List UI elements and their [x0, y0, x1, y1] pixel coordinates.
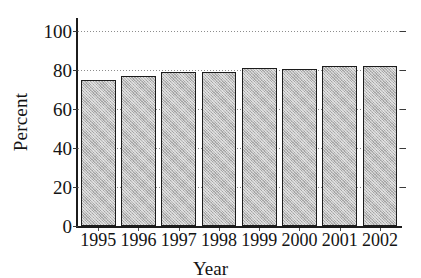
x-tick-label: 1998	[197, 230, 241, 250]
y-tick-mark-0	[73, 226, 78, 227]
x-axis-spine	[76, 226, 402, 228]
x-tick-label: 1999	[237, 230, 281, 250]
x-tick-mark	[380, 228, 381, 231]
x-tick-mark	[138, 228, 139, 231]
y-tick-label: 80	[20, 61, 72, 80]
y-axis-tick-labels: 020406080100	[20, 0, 72, 278]
y-tick-mark-right-60	[400, 109, 406, 110]
y-tick-label: 40	[20, 139, 72, 158]
y-tick-label: 0	[20, 217, 72, 236]
y-tick-label: 100	[20, 22, 72, 41]
x-tick-mark	[98, 228, 99, 231]
bar	[322, 66, 357, 226]
x-axis-tick-labels: 19951996199719981999200020012002	[78, 230, 400, 252]
x-tick-mark	[219, 228, 220, 231]
bar	[282, 69, 317, 226]
x-tick-label: 2000	[277, 230, 321, 250]
bar	[363, 66, 398, 226]
x-tick-label: 1997	[157, 230, 201, 250]
y-tick-label: 60	[20, 100, 72, 119]
y-tick-mark-right-100	[400, 31, 406, 32]
x-tick-mark	[179, 228, 180, 231]
y-tick-mark-right-40	[400, 148, 406, 149]
bar	[121, 76, 156, 226]
x-tick-label: 2002	[358, 230, 402, 250]
plot-area	[78, 31, 400, 226]
bar	[242, 68, 277, 226]
x-tick-label: 1996	[116, 230, 160, 250]
bar-chart-figure: Percent 020406080100 1995199619971998199…	[0, 0, 421, 278]
bar	[202, 72, 237, 226]
bar	[81, 80, 116, 226]
x-axis-title: Year	[0, 258, 421, 278]
y-tick-mark-right-80	[400, 70, 406, 71]
x-tick-mark	[259, 228, 260, 231]
x-tick-mark	[340, 228, 341, 231]
x-tick-label: 2001	[318, 230, 362, 250]
y-tick-label: 20	[20, 178, 72, 197]
bar	[161, 72, 196, 226]
bar-series	[78, 31, 400, 226]
x-tick-label: 1995	[76, 230, 120, 250]
y-tick-mark-right-20	[400, 187, 406, 188]
x-tick-mark	[299, 228, 300, 231]
